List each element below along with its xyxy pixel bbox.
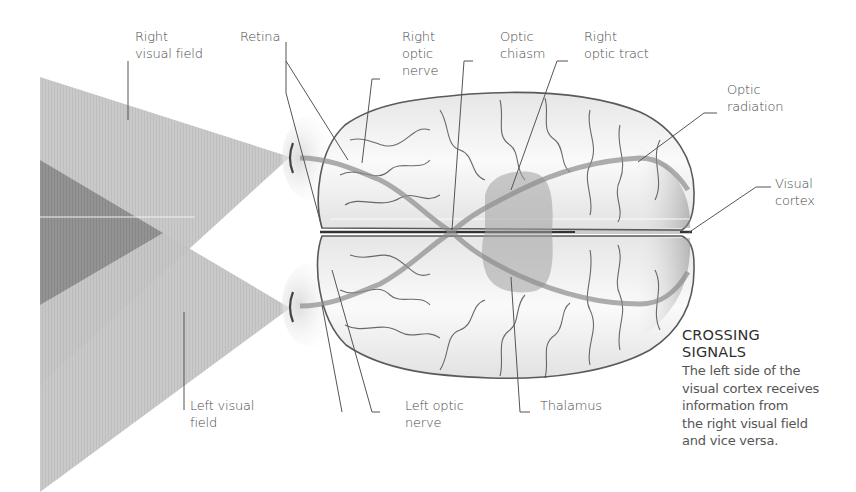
label-visual-cortex: Visual cortex	[775, 175, 815, 209]
label-left-visual-field: Left visual field	[190, 397, 254, 431]
label-left-optic-nerve: Left optic nerve	[405, 397, 464, 431]
label-right-optic-tract: Right optic tract	[584, 28, 649, 62]
label-right-optic-nerve: Right optic nerve	[402, 28, 438, 79]
leader-visual-cortex	[688, 187, 771, 233]
callout-title: CROSSING SIGNALS	[682, 327, 852, 361]
label-thalamus: Thalamus	[540, 397, 602, 414]
callout-body: The left side of the visual cortex recei…	[682, 362, 852, 450]
label-optic-radiation: Optic radiation	[727, 81, 783, 115]
label-retina: Retina	[240, 28, 280, 45]
label-optic-chiasm: Optic chiasm	[500, 28, 545, 62]
visual-pathway-diagram: Right visual field Retina Right optic ne…	[0, 0, 856, 492]
brain	[300, 92, 694, 378]
label-right-visual-field: Right visual field	[135, 28, 203, 62]
crossing-signals-callout: CROSSING SIGNALS The left side of the vi…	[682, 327, 852, 450]
